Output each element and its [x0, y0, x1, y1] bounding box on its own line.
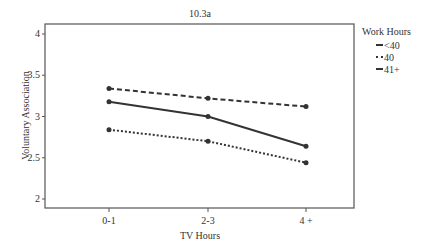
data-point [107, 86, 112, 91]
data-point [304, 160, 309, 165]
legend-item-41plus: 41+ [362, 63, 411, 75]
x-axis-label: TV Hours [45, 230, 355, 241]
data-point [107, 99, 112, 104]
data-point [304, 104, 309, 109]
legend-title: Work Hours [362, 26, 411, 37]
y-axis-label: Voluntary Association [20, 51, 31, 181]
data-point [206, 139, 211, 144]
data-point [206, 114, 211, 119]
solid-line-swatch-icon [376, 44, 383, 46]
series-line-dotted [109, 130, 306, 163]
y-tick-label: 4 [35, 28, 40, 39]
x-tick-label: 2-3 [201, 215, 214, 226]
legend-item-lt40: <40 [362, 39, 411, 51]
x-tick-label: 4 + [299, 215, 313, 226]
legend-item-40: 40 [362, 51, 411, 63]
x-tick-label: 0-1 [102, 215, 115, 226]
dotted-line-swatch-icon [376, 56, 383, 58]
legend: Work Hours <40 40 41+ [362, 26, 411, 75]
y-tick-label: 3 [35, 111, 40, 122]
data-point [107, 127, 112, 132]
y-tick-label: 2 [35, 193, 40, 204]
data-point [206, 96, 211, 101]
dashed-line-swatch-icon [376, 68, 383, 70]
data-point [304, 144, 309, 149]
